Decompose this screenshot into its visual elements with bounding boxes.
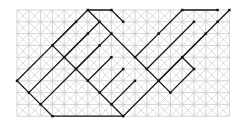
node-dot [98, 21, 100, 23]
node-dot [98, 91, 100, 93]
node-dot [51, 44, 53, 46]
node-dot [75, 21, 77, 23]
node-dot [39, 103, 41, 105]
node-dot [181, 56, 183, 58]
node-dot [216, 9, 218, 11]
node-dot [134, 80, 136, 82]
node-dot [87, 32, 89, 34]
node-dot [110, 56, 112, 58]
node-dot [51, 115, 53, 117]
node-dot [110, 9, 112, 11]
node-dot [181, 9, 183, 11]
node-dot [205, 32, 207, 34]
node-dot [63, 56, 65, 58]
node-dot [16, 80, 18, 82]
node-dot [110, 32, 112, 34]
node-dot [157, 80, 159, 82]
node-dot [193, 21, 195, 23]
node-dot [122, 21, 124, 23]
triangulated-grid-diagram [0, 0, 242, 130]
node-dot [98, 44, 100, 46]
node-dot [193, 68, 195, 70]
node-dot [75, 68, 77, 70]
node-dot [169, 91, 171, 93]
node-dot [216, 21, 218, 23]
node-dot [87, 9, 89, 11]
light-grid-lines [17, 10, 229, 116]
node-dot [110, 103, 112, 105]
node-dot [146, 68, 148, 70]
node-dot [157, 32, 159, 34]
node-dot [134, 56, 136, 58]
node-dot [87, 80, 89, 82]
node-dot [28, 91, 30, 93]
node-dot [122, 68, 124, 70]
node-dot [228, 9, 230, 11]
node-dot [122, 115, 124, 117]
